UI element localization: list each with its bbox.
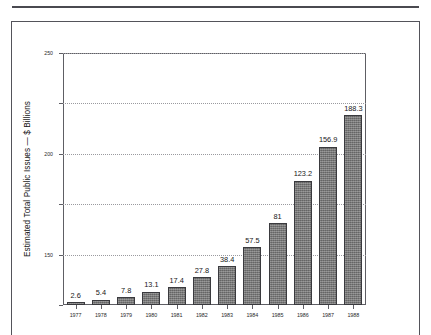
bar [168,287,186,305]
x-axis-tick [353,305,354,309]
bar-value-label: 188.3 [344,105,363,112]
x-axis-tick [328,305,329,309]
bar [319,147,337,305]
x-axis-tick-label: 1981 [171,313,183,318]
bar-slot: 57.5 [240,53,265,305]
x-axis-tick [303,305,304,309]
bar-slot: 2.6 [63,53,88,305]
y-axis-tick: 0 [59,305,63,306]
bar-slot: 38.4 [215,53,240,305]
x-axis-tick [278,305,279,309]
x-axis-tick [76,305,77,309]
bar-value-label: 38.4 [220,256,234,263]
figure-page: 050100150200250 2.65.47.813.117.427.838.… [0,0,431,335]
bar-slot: 81 [265,53,290,305]
y-axis-title: Estimated Total Public Issues — $ Billio… [22,53,35,305]
x-axis-tick-label: 1982 [196,313,208,318]
bar-value-label: 57.5 [245,237,259,244]
bar-value-label: 7.8 [121,287,131,294]
x-axis-tick [177,305,178,309]
x-axis-tick-label: 1977 [70,313,82,318]
bar [218,266,236,305]
x-axis-tick-label: 1986 [297,313,309,318]
bar-slot: 188.3 [341,53,366,305]
x-axis-tick-label: 1983 [221,313,233,318]
x-axis-tick [101,305,102,309]
bar-value-label: 81 [274,213,282,220]
y-axis-tick-label: 250 [44,51,53,56]
bar-slot: 5.4 [88,53,113,305]
bar-slot: 156.9 [316,53,341,305]
x-axis-tick [126,305,127,309]
x-axis-tick [151,305,152,309]
x-axis-tick-label: 1978 [95,313,107,318]
bar [243,247,261,305]
x-axis-tick [202,305,203,309]
bar-slot: 123.2 [290,53,315,305]
bar-value-label: 156.9 [319,136,338,143]
bar-value-label: 27.8 [195,267,209,274]
bar [142,292,160,305]
bar-chart: 050100150200250 2.65.47.813.117.427.838.… [0,0,431,335]
bar [269,223,287,305]
x-axis-tick-label: 1988 [347,313,359,318]
bar [294,181,312,305]
bar-value-label: 17.4 [169,277,183,284]
plot-area: 050100150200250 2.65.47.813.117.427.838.… [63,53,366,305]
bar-slot: 27.8 [189,53,214,305]
x-axis-tick-label: 1987 [322,313,334,318]
x-axis-tick-label: 1985 [272,313,284,318]
x-axis-tick-label: 1979 [120,313,132,318]
bar-value-label: 2.6 [70,292,80,299]
bar-group: 2.65.47.813.117.427.838.457.581123.2156.… [63,53,366,305]
x-axis-tick-label: 1980 [145,313,157,318]
bar [193,277,211,305]
x-axis-tick [227,305,228,309]
x-axis-tick [252,305,253,309]
bar-value-label: 123.2 [294,170,313,177]
y-axis-tick-label: 200 [44,152,53,157]
x-axis-tick-label: 1984 [246,313,258,318]
bar-slot: 17.4 [164,53,189,305]
y-axis-tick-label: 150 [44,253,53,258]
bar-slot: 7.8 [114,53,139,305]
bar-value-label: 5.4 [96,289,106,296]
bar-value-label: 13.1 [144,281,158,288]
bar [344,115,362,305]
bar-slot: 13.1 [139,53,164,305]
bar [117,297,135,305]
